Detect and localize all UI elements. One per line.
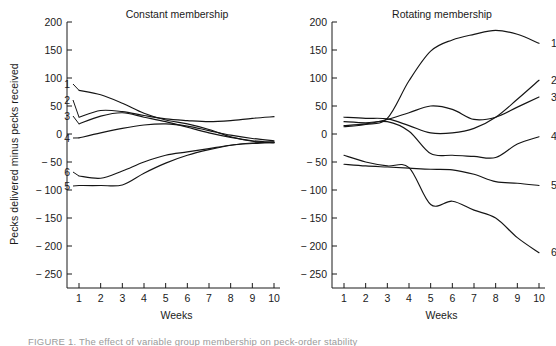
x-tick-label: 1 (341, 292, 347, 304)
series-label-4: 4 (551, 130, 556, 142)
chart-canvas: 200150100500− 50− 100− 150− 200− 2501234… (0, 0, 556, 340)
series-label-3: 3 (64, 110, 70, 122)
series-label-1: 1 (64, 78, 70, 90)
x-tick-label: 10 (533, 292, 545, 304)
x-tick-label: 6 (184, 292, 190, 304)
series-leader-3 (73, 116, 79, 124)
x-tick-label: 3 (119, 292, 125, 304)
y-tick-label: − 100 (300, 184, 327, 196)
y-tick-label: − 200 (300, 240, 327, 252)
y-tick-label: − 100 (35, 184, 62, 196)
y-tick-label: − 150 (300, 212, 327, 224)
x-tick-label: 4 (406, 292, 412, 304)
y-tick-label: 200 (44, 16, 62, 28)
series-label-3: 3 (551, 91, 556, 103)
series-line-4 (79, 124, 274, 141)
series-label-6: 6 (551, 246, 556, 258)
series-label-5: 5 (64, 180, 70, 192)
series-line-2 (79, 110, 274, 122)
series-leader-1 (73, 84, 79, 90)
x-tick-label: 7 (206, 292, 212, 304)
figure-caption-strip: FIGURE 1. The effect of variable group m… (0, 338, 556, 346)
y-tick-label: − 50 (306, 156, 327, 168)
series-leader-6 (73, 172, 79, 176)
series-line-4 (344, 121, 539, 158)
series-line-1 (79, 90, 274, 143)
series-leader-2 (73, 100, 79, 117)
series-label-6: 6 (64, 166, 70, 178)
y-tick-label: 150 (309, 44, 327, 56)
x-tick-label: 3 (384, 292, 390, 304)
y-tick-label: 0 (321, 128, 327, 140)
y-tick-label: − 150 (35, 212, 62, 224)
y-tick-label: 200 (309, 16, 327, 28)
y-tick-label: 50 (50, 100, 62, 112)
series-line-6 (79, 142, 274, 178)
panel-title: Rotating membership (392, 8, 492, 20)
y-tick-label: 100 (44, 72, 62, 84)
x-tick-label: 8 (493, 292, 499, 304)
y-axis-label: Pecks delivered minus pecks received (8, 14, 20, 294)
y-tick-label: − 200 (35, 240, 62, 252)
y-tick-label: − 250 (35, 268, 62, 280)
x-tick-label: 10 (268, 292, 280, 304)
x-tick-label: 1 (76, 292, 82, 304)
y-tick-label: 0 (56, 128, 62, 140)
y-tick-label: 100 (309, 72, 327, 84)
panel-title: Constant membership (126, 8, 229, 20)
panel-constant: 200150100500− 50− 100− 150− 200− 2501234… (35, 8, 280, 321)
x-axis-label: Weeks (161, 309, 193, 321)
series-label-2: 2 (64, 94, 70, 106)
right-panel-series-labels: 123456 (551, 37, 556, 258)
y-tick-label: 150 (44, 44, 62, 56)
x-tick-label: 9 (249, 292, 255, 304)
y-tick-label: − 50 (41, 156, 62, 168)
figure-caption: FIGURE 1. The effect of variable group m… (28, 338, 357, 346)
series-label-5: 5 (551, 179, 556, 191)
series-line-5 (344, 164, 539, 185)
x-tick-label: 2 (363, 292, 369, 304)
series-line-5 (79, 142, 274, 186)
x-tick-label: 4 (141, 292, 147, 304)
y-tick-label: − 250 (300, 268, 327, 280)
series-label-1: 1 (551, 37, 556, 49)
figure-root: Pecks delivered minus pecks received 200… (0, 0, 556, 346)
series-line-1 (344, 30, 539, 126)
x-tick-label: 9 (514, 292, 520, 304)
x-tick-label: 8 (228, 292, 234, 304)
left-panel-series-labels: 123456 (64, 78, 79, 192)
x-tick-label: 5 (428, 292, 434, 304)
series-line-3 (344, 97, 539, 126)
x-tick-label: 5 (163, 292, 169, 304)
panel-rotating: 200150100500− 50− 100− 150− 200− 2501234… (300, 8, 545, 321)
series-label-4: 4 (64, 132, 70, 144)
x-axis-label: Weeks (426, 309, 458, 321)
series-label-2: 2 (551, 74, 556, 86)
x-tick-label: 6 (449, 292, 455, 304)
x-tick-label: 7 (471, 292, 477, 304)
x-tick-label: 2 (98, 292, 104, 304)
y-axis-label-container: Pecks delivered minus pecks received (0, 0, 22, 310)
y-tick-label: 50 (315, 100, 327, 112)
